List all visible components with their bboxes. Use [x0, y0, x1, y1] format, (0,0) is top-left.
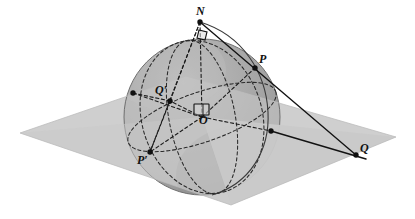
point-q[interactable] — [353, 152, 358, 157]
diagram-canvas: N P P′ Q′ Q O — [0, 0, 415, 219]
label-o: O — [199, 114, 208, 126]
label-n: N — [196, 5, 205, 17]
right-angle-marker-n — [197, 30, 207, 40]
sphere-highlight — [110, 30, 226, 110]
label-p-prime: P′ — [137, 154, 148, 166]
point-q-prime[interactable] — [167, 98, 172, 103]
point-equator-right[interactable] — [268, 128, 273, 133]
point-n[interactable] — [197, 19, 202, 24]
label-q-prime: Q′ — [155, 84, 167, 96]
point-p-prime[interactable] — [147, 149, 152, 154]
label-p: P — [259, 53, 266, 65]
point-equator-left[interactable] — [130, 90, 135, 95]
label-q: Q — [360, 142, 369, 154]
point-p[interactable] — [252, 65, 257, 70]
geometry-figure — [0, 0, 415, 219]
